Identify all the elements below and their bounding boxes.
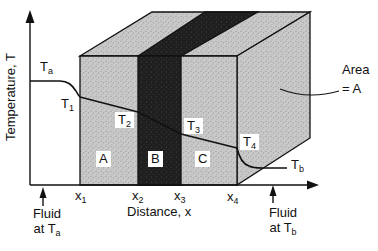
- composite-wall-diagram: Temperature, T Ta T1 T2 T3 T4 Tb A B C x…: [0, 0, 378, 251]
- fluid-a-line1: Fluid: [25, 206, 69, 221]
- layer-label-b: B: [148, 151, 163, 167]
- tick-label-x1: x1: [75, 188, 87, 208]
- temp-label-ta: Ta: [40, 59, 53, 79]
- tick-label-x4: x4: [227, 189, 239, 209]
- temp-label-t1: T1: [61, 96, 74, 116]
- temp-label-t2: T2: [115, 112, 134, 128]
- y-axis-arrowhead-icon: [26, 10, 35, 23]
- area-annotation-line2: = A: [342, 81, 361, 97]
- fluid-a-line2: at Ta: [25, 221, 69, 241]
- fluid-b-annotation: Fluid at Tb: [261, 205, 305, 240]
- x-axis-arrowhead-icon: [307, 181, 319, 190]
- layer-label-c: C: [195, 151, 210, 167]
- fluid-b-line2: at Tb: [261, 220, 305, 240]
- fluid-a-annotation: Fluid at Ta: [25, 206, 69, 241]
- fluid-b-arrowhead-icon: [270, 185, 277, 196]
- fluid-b-line1: Fluid: [261, 205, 305, 220]
- fluid-a-arrowhead-icon: [40, 187, 47, 198]
- y-axis-label: Temperature, T: [3, 17, 19, 177]
- x-axis-label: Distance, x: [127, 204, 191, 220]
- temp-label-tb: Tb: [291, 157, 304, 177]
- temp-label-t4: T4: [240, 134, 259, 150]
- temp-label-t3: T3: [184, 118, 203, 134]
- layer-label-a: A: [96, 151, 111, 167]
- area-annotation-line1: Area: [342, 62, 369, 78]
